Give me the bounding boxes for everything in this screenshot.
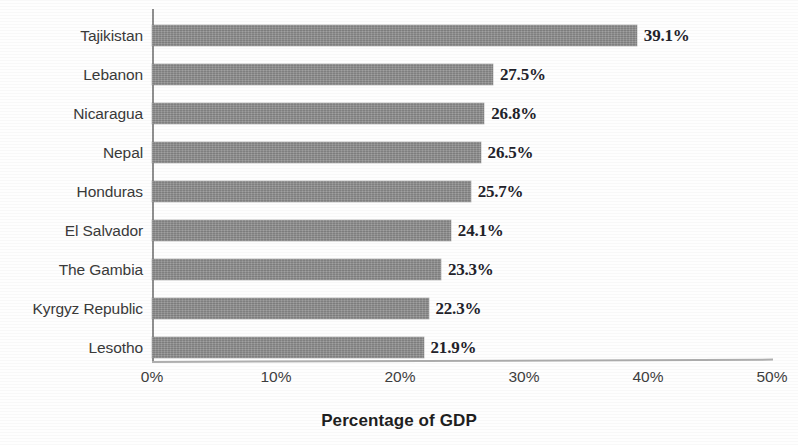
category-label: Lesotho [89, 339, 143, 357]
x-axis-tick-labels: 0%10%20%30%40%50% [152, 368, 772, 394]
category-label: Honduras [77, 183, 143, 201]
bar [152, 337, 424, 358]
bar-chart: Tajikistan39.1%Lebanon27.5%Nicaragua26.8… [0, 0, 798, 445]
category-label: Nepal [103, 144, 143, 162]
category-label: Tajikistan [80, 27, 143, 45]
bar [152, 103, 484, 124]
category-label: Kyrgyz Republic [33, 300, 144, 318]
bar-value-label: 21.9% [431, 338, 477, 358]
x-tick-label: 30% [508, 368, 539, 386]
x-tick-label: 50% [756, 368, 787, 386]
bar-row: Honduras25.7% [152, 172, 772, 211]
bar-value-label: 26.5% [488, 143, 534, 163]
bar-value-label: 25.7% [478, 182, 524, 202]
bar-row: Nepal26.5% [152, 133, 772, 172]
bar [152, 298, 429, 319]
x-tick-label: 40% [632, 368, 663, 386]
bar-row: Kyrgyz Republic22.3% [152, 289, 772, 328]
plot-area: Tajikistan39.1%Lebanon27.5%Nicaragua26.8… [152, 10, 772, 362]
category-label: Nicaragua [73, 105, 143, 123]
x-tick-label: 0% [141, 368, 163, 386]
bar [152, 64, 493, 85]
bar-value-label: 39.1% [644, 26, 690, 46]
x-axis-title: Percentage of GDP [0, 411, 798, 431]
bar-row: Nicaragua26.8% [152, 94, 772, 133]
bar [152, 25, 637, 46]
bar-value-label: 27.5% [500, 65, 546, 85]
x-tick-label: 20% [384, 368, 415, 386]
category-label: El Salvador [65, 222, 143, 240]
bar-value-label: 22.3% [436, 299, 482, 319]
bar-row: Lebanon27.5% [152, 55, 772, 94]
bar [152, 142, 481, 163]
bar-row: El Salvador24.1% [152, 211, 772, 250]
bar [152, 181, 471, 202]
bar-row: Tajikistan39.1% [152, 16, 772, 55]
category-label: Lebanon [83, 66, 143, 84]
bar [152, 220, 451, 241]
bar [152, 259, 441, 280]
bar-value-label: 24.1% [458, 221, 504, 241]
bar-value-label: 26.8% [491, 104, 537, 124]
bar-value-label: 23.3% [448, 260, 494, 280]
bar-row: The Gambia23.3% [152, 250, 772, 289]
x-tick-label: 10% [260, 368, 291, 386]
category-label: The Gambia [59, 261, 143, 279]
